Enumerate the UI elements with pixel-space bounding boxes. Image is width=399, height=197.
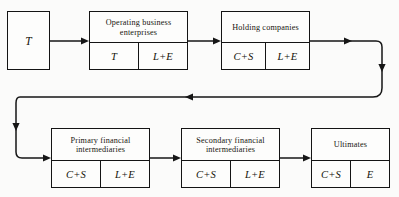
node-holding-companies-label: Holding companies [222,12,309,42]
arrowhead-down [378,64,385,72]
node-holding-companies-cells: C+S L+E [222,42,309,69]
cell-value: C+S [182,161,230,187]
arrowhead-right [213,37,221,44]
node-primary-financial-intermediaries: Primary financial intermediaries C+S L+E [51,128,150,188]
node-operating-business-enterprises-label: Operating business enterprises [90,12,187,42]
arrowhead-right [344,37,352,44]
cell-value: L+E [230,161,279,187]
arrowhead-right [81,37,89,44]
cell-value: C+S [52,161,100,187]
cell-value: C+S [312,161,350,187]
node-ultimates-label: Ultimates [312,129,389,160]
flow-diagram: T Operating business enterprises T L+E H… [0,0,399,197]
cell-value: T [90,43,138,69]
node-primary-financial-intermediaries-label: Primary financial intermediaries [52,129,149,160]
arrowhead-left [185,93,193,100]
node-secondary-financial-intermediaries: Secondary financial intermediaries C+S L… [181,128,280,188]
cell-value: C+S [222,43,265,69]
node-primary-financial-intermediaries-cells: C+S L+E [52,160,149,187]
node-secondary-financial-intermediaries-cells: C+S L+E [182,160,279,187]
cell-value: L+E [265,43,309,69]
arrowhead-right [173,154,181,161]
node-operating-business-enterprises-cells: T L+E [90,42,187,69]
cell-value: L+E [100,161,149,187]
connector-holding-to-return-bus [20,41,382,97]
node-operating-business-enterprises: Operating business enterprises T L+E [89,11,188,70]
node-holding-companies: Holding companies C+S L+E [221,11,310,70]
arrowhead-down [12,123,19,131]
node-source: T [7,11,50,70]
cell-value: E [350,161,389,187]
node-secondary-financial-intermediaries-label: Secondary financial intermediaries [182,129,279,160]
node-ultimates: Ultimates C+S E [311,128,390,188]
node-ultimates-cells: C+S E [312,160,389,187]
arrowhead-right [43,154,51,161]
cell-value: L+E [138,43,187,69]
connector-return-bus-to-primary [16,97,47,158]
arrowhead-right [303,154,311,161]
